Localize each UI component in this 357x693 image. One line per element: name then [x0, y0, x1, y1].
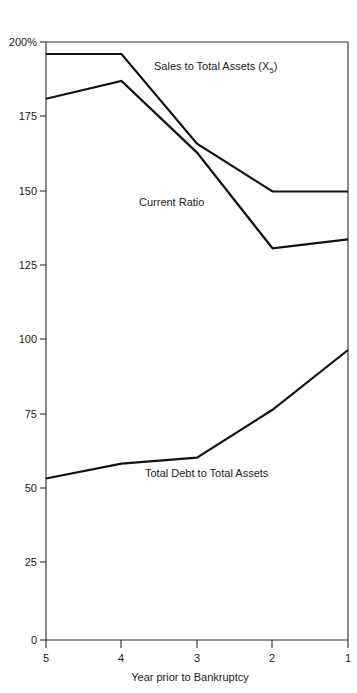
y-tick-labels: 200% 175 150 125 100 75 50 25 0: [9, 36, 37, 646]
series-label-total-debt-to-total-assets: Total Debt to Total Assets: [145, 467, 269, 479]
x-tick-labels: 5 4 3 2 1: [43, 652, 351, 664]
y-tick-label-175: 175: [19, 110, 37, 122]
x-tick-label-1: 1: [345, 652, 351, 664]
x-tick-label-5: 5: [43, 652, 49, 664]
y-tick-label-0: 0: [31, 634, 37, 646]
y-tick-label-50: 50: [25, 482, 37, 494]
y-tick-label-75: 75: [25, 408, 37, 420]
series-line-total-debt-to-total-assets: [46, 350, 348, 479]
plot-frame: [46, 42, 348, 640]
series-line-sales-to-total-assets: [46, 54, 348, 192]
y-tick-label-150: 150: [19, 185, 37, 197]
series-label-sales-to-total-assets: Sales to Total Assets (X5): [154, 60, 277, 75]
series-label-current-ratio: Current Ratio: [139, 196, 204, 208]
y-tick-label-100: 100: [19, 333, 37, 345]
series-line-current-ratio: [46, 81, 348, 248]
chart-figure: 200% 175 150 125 100 75 50 25 0 5 4 3 2 …: [0, 0, 357, 693]
x-tick-marks: [46, 640, 348, 648]
x-tick-label-3: 3: [194, 652, 200, 664]
x-tick-label-2: 2: [269, 652, 275, 664]
y-tick-label-125: 125: [19, 259, 37, 271]
y-tick-marks: [40, 42, 46, 640]
y-tick-label-200: 200%: [9, 36, 37, 48]
x-axis-title: Year prior to Bankruptcy: [131, 671, 249, 683]
x-tick-label-4: 4: [118, 652, 124, 664]
y-tick-label-25: 25: [25, 556, 37, 568]
line-chart-svg: 200% 175 150 125 100 75 50 25 0 5 4 3 2 …: [0, 0, 357, 693]
